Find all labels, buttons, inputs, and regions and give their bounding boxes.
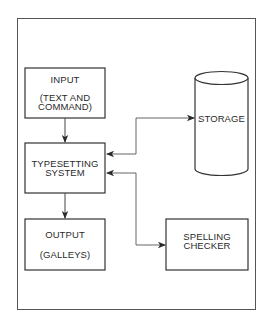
typesetting-line-2: SYSTEM bbox=[25, 168, 105, 177]
input-subtitle-2: COMMAND) bbox=[25, 102, 105, 111]
input-title: INPUT bbox=[25, 75, 105, 84]
spelling-line-2: CHECKER bbox=[166, 241, 248, 250]
output-subtitle: (GALLEYS) bbox=[25, 250, 105, 259]
output-box bbox=[25, 219, 105, 270]
storage-label: STORAGE bbox=[195, 114, 248, 123]
arrow-typesetting-spelling bbox=[107, 173, 165, 245]
arrow-typesetting-storage bbox=[107, 118, 194, 154]
output-title: OUTPUT bbox=[25, 230, 105, 239]
